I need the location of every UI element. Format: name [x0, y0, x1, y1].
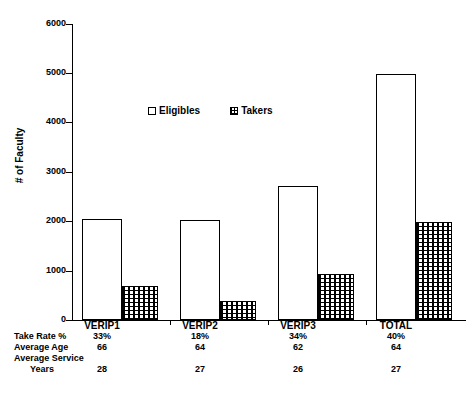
cell-years-verip2: 27	[165, 364, 235, 375]
legend-item-takers: Takers	[230, 106, 273, 116]
cell-take-rate-total: 40%	[361, 331, 431, 342]
bar-eligibles-verip2	[180, 220, 220, 320]
y-tick-label-3000: 3000	[32, 167, 66, 176]
table-row: Average Service	[0, 353, 476, 364]
table-row: Take Rate % 33% 18% 34% 40%	[0, 331, 476, 342]
cell-years-total: 27	[361, 364, 431, 375]
eligibles-swatch-icon	[148, 107, 156, 115]
cell-take-rate-verip2: 18%	[165, 331, 235, 342]
row-label-years: Years	[30, 364, 54, 375]
y-tick-label-6000: 6000	[32, 19, 66, 28]
y-tick-label-2000: 2000	[32, 216, 66, 225]
y-tick-label-5000: 5000	[32, 68, 66, 77]
cell-take-rate-verip1: 33%	[67, 331, 137, 342]
bar-takers-total	[416, 222, 452, 320]
legend-label-eligibles: Eligibles	[159, 106, 200, 116]
legend-label-takers: Takers	[241, 106, 273, 116]
takers-swatch-icon	[230, 107, 238, 115]
data-table: VERIP1 VERIP2 VERIP3 TOTAL Take Rate % 3…	[0, 318, 476, 375]
bar-eligibles-total	[376, 74, 416, 320]
bar-eligibles-verip3	[278, 186, 318, 320]
bar-takers-verip1	[122, 286, 158, 320]
cell-average-age-total: 64	[361, 342, 431, 353]
bar-takers-verip3	[318, 274, 354, 320]
cell-take-rate-verip3: 34%	[263, 331, 333, 342]
legend-item-eligibles: Eligibles	[148, 106, 200, 116]
bar-eligibles-verip1	[82, 219, 122, 320]
row-label-average-age: Average Age	[14, 342, 68, 353]
chart-page: # of Faculty 6000 5000 4000 3000 2000 10…	[0, 0, 476, 401]
table-row-categories: VERIP1 VERIP2 VERIP3 TOTAL	[0, 318, 476, 331]
cell-average-age-verip1: 66	[67, 342, 137, 353]
cell-years-verip3: 26	[263, 364, 333, 375]
row-label-take-rate: Take Rate %	[14, 331, 66, 342]
table-row: Years 28 27 26 27	[0, 364, 476, 375]
y-axis-line	[72, 24, 73, 320]
cell-average-age-verip3: 62	[263, 342, 333, 353]
table-row: Average Age 66 64 62 64	[0, 342, 476, 353]
y-tick-label-1000: 1000	[32, 266, 66, 275]
y-axis-label: # of Faculty	[14, 111, 25, 201]
cell-average-age-verip2: 64	[165, 342, 235, 353]
row-label-average-service: Average Service	[14, 353, 84, 364]
y-tick-label-4000: 4000	[32, 117, 66, 126]
cell-years-verip1: 28	[67, 364, 137, 375]
chart-legend: Eligibles Takers	[148, 106, 273, 116]
